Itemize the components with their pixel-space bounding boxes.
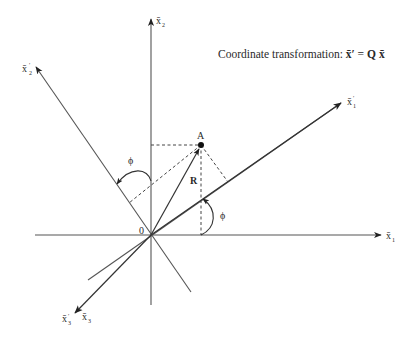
x3-axis-label: x̄ 3 bbox=[82, 311, 91, 324]
diagram-canvas: Coordinate transformation: x̄′ = Qx̄ x̄ … bbox=[0, 0, 411, 342]
svg-text:3: 3 bbox=[88, 318, 91, 324]
svg-text:′: ′ bbox=[29, 62, 31, 68]
diagram-title: Coordinate transformation: x̄′ = Qx̄ bbox=[218, 48, 385, 60]
svg-text:x̄: x̄ bbox=[62, 313, 67, 324]
angle-phi-x2-arc bbox=[117, 171, 151, 184]
origin-label: 0 bbox=[139, 225, 144, 236]
svg-text:x̄: x̄ bbox=[156, 15, 161, 26]
projection-to-x1-prime bbox=[201, 145, 228, 182]
x2-axis-label: x̄ 2 bbox=[156, 15, 165, 28]
x1-axis-label: x̄ 1 bbox=[386, 230, 395, 243]
svg-text:3: 3 bbox=[68, 320, 71, 326]
x2-prime-axis-label: x̄ ′ 2 bbox=[22, 62, 32, 76]
svg-text:x̄: x̄ bbox=[82, 311, 87, 322]
x3-axis bbox=[75, 235, 151, 313]
svg-text:1: 1 bbox=[392, 237, 395, 243]
point-a-label: A bbox=[197, 130, 205, 141]
angle-phi-x1-label: ϕ bbox=[220, 210, 225, 221]
projection-to-x2-prime bbox=[129, 145, 201, 203]
position-vector-r bbox=[151, 149, 199, 235]
svg-text:′: ′ bbox=[353, 95, 355, 101]
svg-text:′: ′ bbox=[68, 313, 70, 319]
coordinate-transformation-diagram: Coordinate transformation: x̄′ = Qx̄ x̄ … bbox=[0, 0, 411, 342]
svg-text:x̄: x̄ bbox=[347, 96, 352, 107]
svg-text:2: 2 bbox=[162, 22, 165, 28]
x1-prime-axis-label: x̄ ′ 1 bbox=[347, 95, 356, 109]
x3-prime-axis-label: x̄ ′ 3 bbox=[62, 313, 71, 326]
svg-text:1: 1 bbox=[353, 103, 356, 109]
vector-r-label: R bbox=[190, 175, 198, 186]
svg-text:x̄: x̄ bbox=[386, 230, 391, 241]
x1-prime-axis bbox=[151, 103, 341, 235]
svg-text:x̄: x̄ bbox=[22, 63, 27, 74]
svg-text:2: 2 bbox=[29, 70, 32, 76]
angle-phi-x1-arc bbox=[201, 199, 213, 235]
x2-prime-axis bbox=[36, 67, 191, 292]
angle-phi-x2-label: ϕ bbox=[128, 155, 133, 166]
point-a bbox=[198, 142, 204, 148]
